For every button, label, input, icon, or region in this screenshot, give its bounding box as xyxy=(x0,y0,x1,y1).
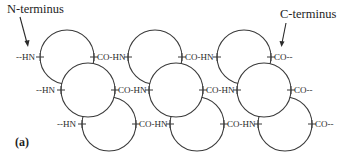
residue-circle xyxy=(61,63,115,117)
bond-label: --HN xyxy=(57,119,76,129)
bond-label: CO-HN xyxy=(227,119,256,129)
bond-label: --HN xyxy=(36,85,55,95)
bond-label: CO-- xyxy=(274,52,293,62)
bond-label: --HN xyxy=(16,52,35,62)
n-terminus-arrow-icon xyxy=(20,17,30,47)
bond-label: CO-HN xyxy=(139,119,168,129)
panel-label: (a) xyxy=(15,135,29,149)
bond-label: CO-- xyxy=(315,119,334,129)
residue-circle xyxy=(149,63,203,117)
bond-label: CO-HN xyxy=(118,85,147,95)
residue-circle xyxy=(237,63,291,117)
bond-label: CO-HN xyxy=(185,52,214,62)
bond-label: CO-HN xyxy=(97,52,126,62)
n-terminus-label: N-terminus xyxy=(7,2,64,16)
peptide-chain-diagram: N-terminus C-terminus --HN CO-HN xyxy=(0,0,352,162)
c-terminus-label: C-terminus xyxy=(280,7,336,21)
bond-label: CO-- xyxy=(294,85,313,95)
c-terminus-arrow-icon xyxy=(280,23,287,47)
bond-label: CO-HN xyxy=(206,85,235,95)
row-2-residues xyxy=(61,63,291,117)
